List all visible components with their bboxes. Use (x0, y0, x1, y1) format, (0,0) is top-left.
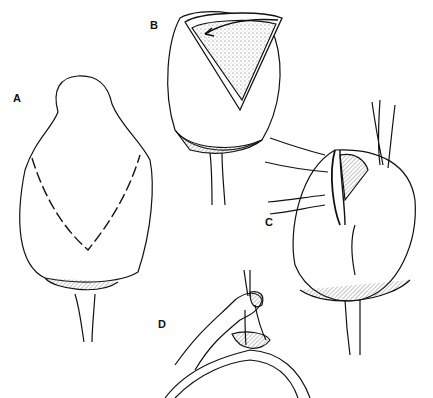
figure-canvas: A B C D (0, 0, 433, 398)
panel-label-b: B (150, 19, 158, 31)
panel-label-a: A (13, 92, 21, 104)
panel-label-d: D (158, 318, 166, 330)
panel-c-drawing (265, 100, 415, 355)
panel-label-c: C (265, 216, 273, 228)
panel-b-drawing (168, 12, 282, 205)
panel-a-drawing (20, 76, 153, 342)
panel-d-drawing (165, 270, 310, 398)
illustration-svg (0, 0, 433, 398)
